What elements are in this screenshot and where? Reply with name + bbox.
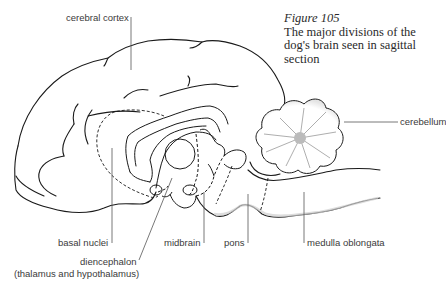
basal-nuclei-boundary	[97, 110, 164, 198]
cerebrum-outline	[0, 39, 285, 212]
label-diencephalon: diencephalon	[80, 256, 137, 267]
label-pons: pons	[224, 237, 245, 248]
thalamus-circle	[165, 139, 195, 169]
label-medulla-oblongata: medulla oblongata	[307, 237, 385, 248]
label-midbrain: midbrain	[164, 237, 200, 248]
figure-caption: Figure 105 The major divisions of the do…	[284, 12, 424, 66]
midbrain	[196, 150, 246, 196]
label-cerebral-cortex: cerebral cortex	[66, 12, 129, 23]
corpus-callosum	[126, 106, 228, 188]
label-cerebellum: cerebellum	[400, 116, 446, 127]
figure-number: Figure 105	[284, 12, 424, 26]
figure-caption-text: The major divisions of the dog's brain s…	[284, 26, 424, 67]
label-basal-nuclei: basal nuclei	[58, 237, 108, 248]
label-diencephalon-sub: (thalamus and hypothalamus)	[14, 268, 139, 279]
